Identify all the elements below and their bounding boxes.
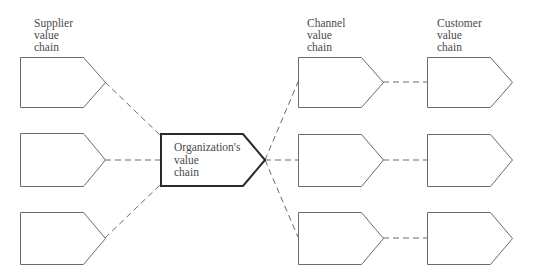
customer-value-chain-node-2 [428, 135, 513, 187]
label-line: chain [174, 166, 240, 179]
label-line: Supplier [34, 17, 73, 29]
label-line: Customer [437, 17, 482, 29]
edge-supplier-3-organization [105, 184, 161, 238]
supplier-column-label: Supplier value chain [34, 17, 73, 53]
customer-column-label: Customer value chain [437, 17, 482, 53]
label-line: value [174, 154, 240, 167]
edge-supplier-1-organization [105, 82, 161, 136]
label-line: value [307, 29, 345, 41]
customer-value-chain-node-1 [428, 58, 513, 108]
channel-value-chain-node-1 [299, 58, 384, 108]
label-line: chain [437, 41, 482, 53]
label-line: value [34, 29, 73, 41]
supplier-value-chain-node-1 [21, 58, 106, 108]
supplier-value-chain-node-2 [21, 134, 106, 187]
label-line: value [437, 29, 482, 41]
channel-value-chain-node-2 [299, 135, 384, 187]
organization-node-label: Organization's value chain [174, 141, 240, 179]
label-line: chain [307, 41, 345, 53]
channel-value-chain-node-3 [299, 213, 384, 265]
edge-organization-channel-1 [265, 82, 298, 160]
channel-column-label: Channel value chain [307, 17, 345, 53]
supplier-value-chain-node-3 [21, 213, 106, 265]
customer-value-chain-node-3 [428, 213, 513, 265]
label-line: chain [34, 41, 73, 53]
label-line: Channel [307, 17, 345, 29]
edge-organization-channel-3 [265, 160, 298, 237]
label-line: Organization's [174, 141, 240, 154]
